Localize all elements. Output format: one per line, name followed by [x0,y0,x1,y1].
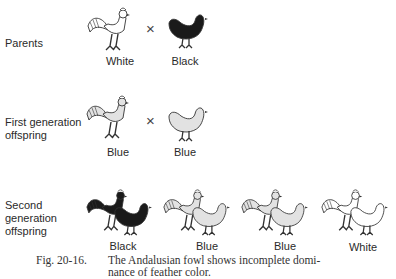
blue-hen-icon [166,102,208,142]
label-blue: Blue [93,146,143,159]
label-line: generation [5,212,57,225]
row-label-first-generation: First generation offspring [5,116,81,142]
white-hen-icon [348,198,388,236]
white-rooster-icon [85,4,137,54]
row-label-parents: Parents [5,37,43,50]
label-blue: Blue [160,146,210,159]
label-line: Second [5,199,57,212]
cross-symbol: × [146,112,155,129]
label-line: offspring [5,225,57,238]
blue-hen-icon [190,198,230,236]
black-hen-icon [166,9,208,49]
label-line: offspring [5,129,81,142]
blue-hen-icon [268,198,308,236]
label-white: White [95,55,145,68]
figure-number: Fig. 20-16. [36,254,87,267]
label-blue: Blue [182,240,232,253]
label-black: Black [98,240,148,253]
cross-symbol: × [146,20,155,37]
label-line: First generation [5,116,81,129]
row-label-second-generation: Second generation offspring [5,199,57,238]
blue-rooster-icon [85,92,135,142]
label-white: White [338,241,388,254]
label-black: Black [160,55,210,68]
label-blue: Blue [260,240,310,253]
black-hen-icon [112,198,152,236]
caption-line-2: nance of feather color. [108,266,211,279]
